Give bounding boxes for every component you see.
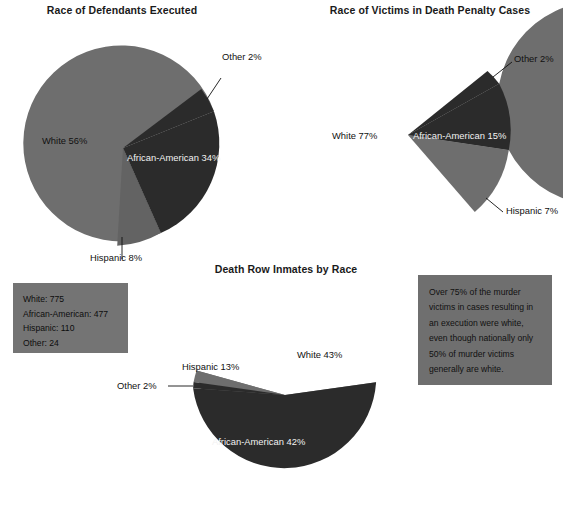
counts-line-other: Other: 24 xyxy=(23,336,118,351)
note-line-1: Over 75% of the murder xyxy=(429,285,541,300)
pie-label-white-inmates: White 43% xyxy=(297,349,342,360)
note-line-3: an execution were white, xyxy=(429,316,541,331)
leader-line-other-defendants xyxy=(207,78,221,99)
pie-label-african-american-victims: African-American 15% xyxy=(413,130,506,141)
pie-callout-hispanic-defendants: Hispanic 8% xyxy=(90,252,142,263)
pie-chart-inmates: White 43% Hispanic 13% African-American … xyxy=(150,278,430,511)
pie-label-african-american-defendants: African-American 34% xyxy=(127,152,220,163)
infographic-canvas: Race of Defendants Executed White 56% Af… xyxy=(0,0,563,511)
pie-label-white-victims: White 77% xyxy=(332,130,377,141)
chart-title-inmates: Death Row Inmates by Race xyxy=(196,263,376,275)
pie-callout-other-inmates: Other 2% xyxy=(117,380,157,391)
note-line-2: victims in cases resulting in xyxy=(429,300,541,315)
counts-box: White: 775 African-American: 477 Hispani… xyxy=(13,283,128,353)
pie-slice-african-american-inmates xyxy=(193,382,376,468)
counts-line-white: White: 775 xyxy=(23,292,118,307)
chart-title-defendants: Race of Defendants Executed xyxy=(22,4,222,16)
note-line-6: generally are white. xyxy=(429,362,541,377)
note-line-5: 50% of murder victims xyxy=(429,347,541,362)
pie-label-hispanic-inmates: Hispanic 13% xyxy=(182,361,239,372)
pie-callout-other-victims: Other 2% xyxy=(514,53,554,64)
pie-label-white-defendants: White 56% xyxy=(42,135,87,146)
leader-line-hispanic-victims xyxy=(486,198,503,212)
pie-callout-other-defendants: Other 2% xyxy=(222,51,262,62)
chart-title-victims: Race of Victims in Death Penalty Cases xyxy=(305,4,555,16)
note-box: Over 75% of the murder victims in cases … xyxy=(418,275,552,385)
pie-label-african-american-inmates: African-American 42% xyxy=(212,436,305,447)
pie-callout-hispanic-victims: Hispanic 7% xyxy=(506,205,558,216)
note-line-4: even though nationally only xyxy=(429,331,541,346)
counts-line-african-american: African-American: 477 xyxy=(23,307,118,322)
counts-line-hispanic: Hispanic: 110 xyxy=(23,321,118,336)
